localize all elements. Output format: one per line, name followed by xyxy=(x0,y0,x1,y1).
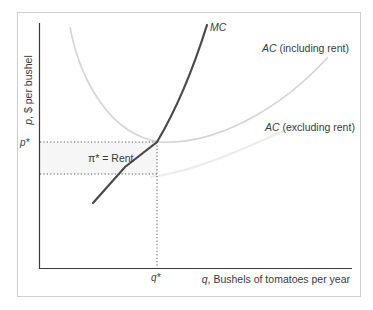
p-star-label: p* xyxy=(19,137,31,148)
chart: MC AC (including rent) AC (excluding ren… xyxy=(0,0,373,310)
x-axis-title: q, Bushels of tomatoes per year xyxy=(202,273,351,285)
ac-excluding-rent-label: AC (excluding rent) xyxy=(264,121,355,133)
ac-including-rent-label: AC (including rent) xyxy=(261,42,349,54)
y-axis-title: p, $ per bushel xyxy=(22,55,34,125)
rent-label: π* = Rent xyxy=(88,152,134,164)
q-star-label: q* xyxy=(151,272,162,283)
mc-label: MC xyxy=(210,21,227,33)
